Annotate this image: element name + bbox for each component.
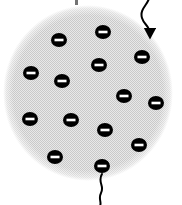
- tick-top: [75, 0, 78, 5]
- negative-charge-icon: [97, 123, 113, 137]
- diagram-canvas: [0, 0, 182, 205]
- negative-charge-icon: [134, 50, 150, 64]
- minus-sign-icon: [99, 31, 108, 34]
- minus-sign-icon: [51, 156, 60, 159]
- charged-sphere-figure: [0, 0, 182, 205]
- negative-charge-icon: [51, 33, 67, 47]
- minus-sign-icon: [55, 39, 64, 42]
- negative-charge-icon: [47, 150, 63, 164]
- minus-sign-icon: [58, 80, 67, 83]
- negative-charge-icon: [131, 138, 147, 152]
- minus-sign-icon: [101, 129, 110, 132]
- negative-charge-icon: [116, 89, 132, 103]
- registration-marks: [75, 0, 78, 5]
- minus-sign-icon: [120, 95, 129, 98]
- minus-sign-icon: [26, 118, 35, 121]
- minus-sign-icon: [152, 102, 161, 105]
- negative-charge-icon: [95, 25, 111, 39]
- negative-charge-icon: [22, 112, 38, 126]
- negative-charge-icon: [54, 74, 70, 88]
- minus-sign-icon: [138, 56, 147, 59]
- minus-sign-icon: [135, 144, 144, 147]
- sphere-body: [3, 5, 173, 181]
- negative-charge-icon: [94, 159, 110, 173]
- negative-charge-icon: [63, 113, 79, 127]
- negative-charge-icon: [23, 66, 39, 80]
- minus-sign-icon: [98, 165, 107, 168]
- minus-sign-icon: [27, 72, 36, 75]
- minus-sign-icon: [95, 64, 104, 67]
- charged-sphere: [3, 5, 173, 181]
- negative-charge-icon: [148, 96, 164, 110]
- negative-charge-icon: [91, 58, 107, 72]
- minus-sign-icon: [67, 119, 76, 122]
